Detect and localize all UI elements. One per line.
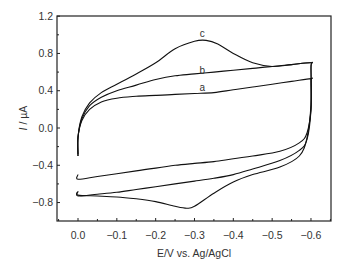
curve-label-b: b (199, 65, 205, 76)
curve-a (77, 78, 313, 179)
x-tick-label: −0.2 (145, 229, 166, 241)
curve-label-c: c (200, 28, 205, 39)
y-tick-label: 0.8 (38, 47, 53, 59)
curve-c (77, 40, 313, 208)
curve-b (77, 62, 313, 196)
x-tick-label: −0.6 (301, 229, 322, 241)
x-tick-label: −0.5 (262, 229, 283, 241)
y-axis-label: I / µA (17, 106, 29, 131)
y-tick-label: 1.2 (38, 10, 53, 22)
y-tick-label: −0.4 (32, 159, 53, 171)
x-tick-label: 0.0 (71, 229, 86, 241)
curve-labels: abc (199, 28, 205, 93)
y-tick-label: 0.4 (38, 84, 53, 96)
x-tick-label: −0.4 (223, 229, 244, 241)
y-axis-ticks: 1.20.80.40.0−0.4−0.8 (32, 10, 60, 208)
x-tick-label: −0.3 (184, 229, 205, 241)
plot-frame (57, 16, 331, 221)
y-tick-label: −0.8 (32, 196, 53, 208)
y-axis-label-unit: / µA (17, 106, 29, 128)
data-series (77, 40, 313, 208)
y-tick-label: 0.0 (38, 122, 53, 134)
x-tick-label: −0.1 (106, 229, 127, 241)
curve-label-a: a (199, 82, 205, 93)
cyclic-voltammogram-chart: 0.0−0.1−0.2−0.3−0.4−0.5−0.6 1.20.80.40.0… (0, 0, 344, 265)
x-axis-label: E/V vs. Ag/AgCl (157, 247, 231, 259)
